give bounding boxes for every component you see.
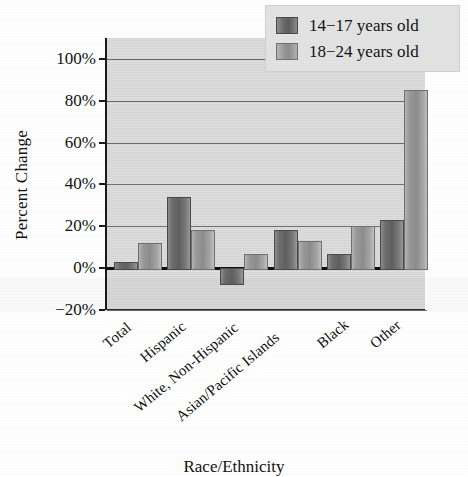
y-tick-label: 80% xyxy=(6,92,96,109)
x-tick-label: Other xyxy=(367,317,404,352)
y-tick-mark xyxy=(99,309,105,311)
bar-group xyxy=(374,38,427,310)
bar-group xyxy=(267,38,320,310)
bar-group xyxy=(214,38,267,310)
y-tick-mark xyxy=(99,267,105,269)
y-tick-mark xyxy=(99,58,105,60)
y-tick-label: 0% xyxy=(6,259,96,276)
y-tick-mark xyxy=(99,183,105,185)
bar xyxy=(138,243,162,270)
bar xyxy=(404,90,428,270)
y-tick-mark xyxy=(99,225,105,227)
bar xyxy=(274,230,298,270)
legend-swatch-series-0 xyxy=(276,17,298,34)
bar xyxy=(327,254,351,271)
bar xyxy=(167,197,191,270)
y-tick-label: 100% xyxy=(6,50,96,67)
bar-group xyxy=(160,38,213,310)
x-tick-label: Black xyxy=(314,316,352,352)
bar xyxy=(244,254,268,271)
bar xyxy=(351,226,375,270)
y-tick-mark xyxy=(99,142,105,144)
legend-swatch-series-1 xyxy=(276,43,298,60)
y-tick-label: −20% xyxy=(6,301,96,318)
plot-area xyxy=(105,38,425,310)
x-tick-label: Hispanic xyxy=(137,318,189,366)
bar xyxy=(380,220,404,270)
legend-entry: 14−17 years old xyxy=(276,12,451,38)
y-tick-label: 60% xyxy=(6,134,96,151)
bar xyxy=(220,268,244,285)
bar xyxy=(298,241,322,270)
bar-group xyxy=(107,38,160,310)
x-axis-title: Race/Ethnicity xyxy=(0,457,468,477)
legend-label-series-0: 14−17 years old xyxy=(309,17,419,34)
bar-group xyxy=(320,38,373,310)
gridline--20 xyxy=(107,310,427,311)
legend-label-series-1: 18−24 years old xyxy=(309,43,419,60)
legend: 14−17 years old 18−24 years old xyxy=(265,5,460,72)
y-tick-label: 20% xyxy=(6,217,96,234)
y-tick-mark xyxy=(99,100,105,102)
y-tick-label: 40% xyxy=(6,175,96,192)
bar xyxy=(114,262,138,270)
legend-entry: 18−24 years old xyxy=(276,38,451,64)
x-tick-label: Total xyxy=(100,319,135,352)
bar xyxy=(191,230,215,270)
